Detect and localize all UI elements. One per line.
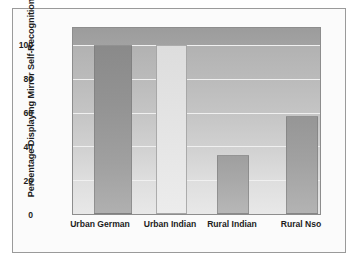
bar-urban-indian[interactable] (156, 45, 187, 214)
y-tick-label-60: 60 (0, 108, 33, 118)
x-tick-label-urban-german: Urban German (62, 219, 138, 229)
y-axis-title: Percentage Displaying Mirror Self-Recogn… (26, 0, 36, 198)
bar-urban-german[interactable] (94, 45, 132, 214)
y-tick-label-0: 0 (0, 210, 33, 220)
x-tick-label-rural-nso: Rural Nso (263, 219, 339, 229)
bar-rural-nso[interactable] (286, 116, 318, 214)
y-tick-label-20: 20 (0, 176, 33, 186)
above-max-band (73, 28, 320, 45)
plot-area (72, 27, 321, 215)
y-tick-label-40: 40 (0, 142, 33, 152)
y-tick-label-100: 100 (0, 40, 33, 50)
y-tick-label-80: 80 (0, 74, 33, 84)
x-tick-label-rural-indian: Rural Indian (194, 219, 270, 229)
figure-container: Percentage Displaying Mirror Self-Recogn… (0, 0, 358, 264)
bar-rural-indian[interactable] (217, 155, 249, 214)
bar-chart: Percentage Displaying Mirror Self-Recogn… (0, 0, 358, 264)
